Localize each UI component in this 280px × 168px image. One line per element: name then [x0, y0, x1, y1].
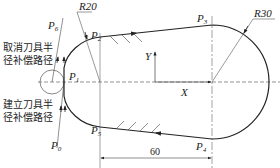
- cam-profile-diagram: 60 R20 R30 Y X P6 P2 P3 P1 P5 P4 P0 取消刀具…: [0, 0, 280, 168]
- point-label-p0: P0: [50, 139, 62, 153]
- hatch-bottom: [116, 121, 160, 132]
- setup-compensation-label-line2: 径补偿路径: [3, 111, 53, 123]
- cancel-compensation-label-line1: 取消刀具半: [3, 41, 53, 53]
- dimension-60-label: 60: [150, 146, 160, 157]
- point-label-p1: P1: [68, 70, 79, 84]
- setup-path-line: [57, 82, 64, 148]
- y-axis-label: Y: [145, 50, 153, 62]
- cancel-arrow-1: [57, 57, 58, 63]
- r20-leader: [77, 12, 100, 82]
- x-axis-label: X: [180, 86, 189, 98]
- point-label-p2: P2: [90, 29, 102, 43]
- point-label-p3: P3: [196, 12, 208, 26]
- setup-compensation-label-line1: 建立刀具半: [3, 98, 53, 110]
- r30-leader-arrow: [244, 26, 248, 33]
- r20-label: R20: [78, 0, 97, 12]
- r30-label: R30: [253, 7, 272, 19]
- point-label-p4: P4: [195, 140, 207, 154]
- cancel-compensation-label-line2: 径补偿路径: [3, 54, 53, 66]
- point-label-p6: P6: [47, 19, 59, 33]
